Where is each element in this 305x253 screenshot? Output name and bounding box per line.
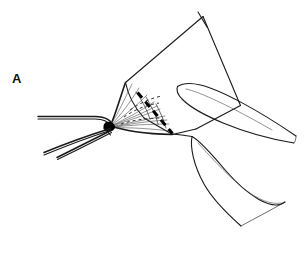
line-drawing-canvas bbox=[0, 0, 305, 253]
panel-label: A bbox=[12, 72, 22, 85]
canvas-background bbox=[0, 0, 305, 253]
figure-panel: A bbox=[0, 0, 305, 253]
